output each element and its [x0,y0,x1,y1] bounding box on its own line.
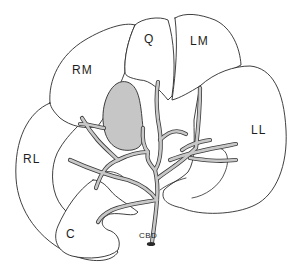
label-right-lateral: RL [23,152,40,166]
label-left-lateral: LL [251,123,266,137]
label-common-bile-duct: CBD [139,231,157,240]
label-quadrate: Q [144,32,154,46]
label-left-medial: LM [190,34,209,48]
cbd-cut-end [147,242,155,246]
liver-diagram: RM Q LM LL RL C CBD [0,0,297,274]
label-caudate: C [66,227,76,241]
gallbladder [103,82,143,151]
lobe-caudate [56,180,138,258]
label-right-medial: RM [72,63,93,77]
